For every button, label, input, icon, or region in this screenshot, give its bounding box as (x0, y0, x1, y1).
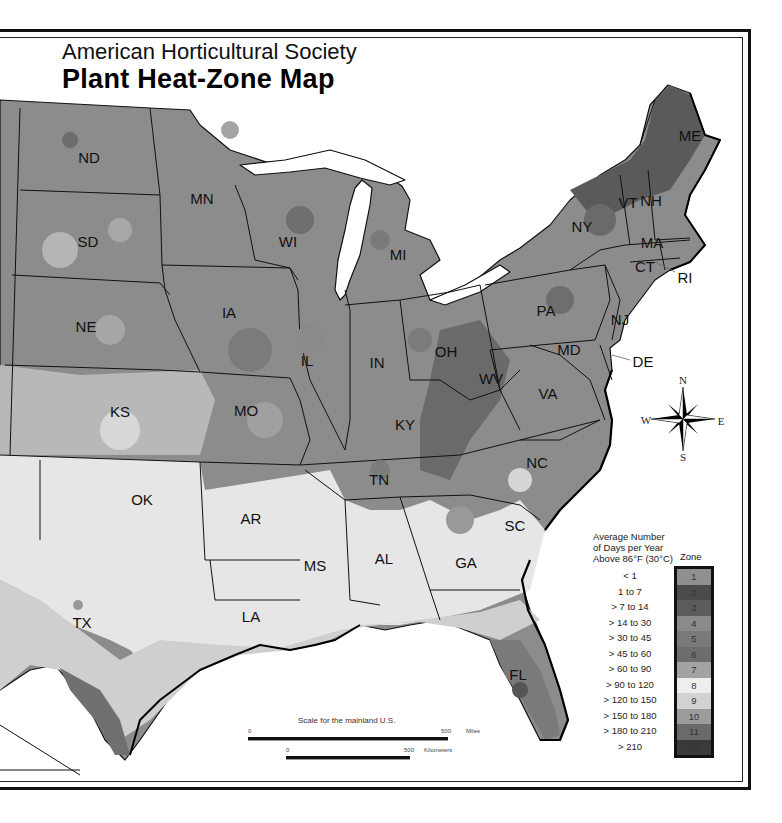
legend-range-label: > 45 to 60 (590, 648, 670, 659)
legend-swatch-zone-8: 8 (677, 678, 711, 694)
state-label-ks: KS (110, 403, 130, 420)
legend-swatch-zone-1: 1 (677, 569, 711, 585)
state-label-tn: TN (369, 471, 389, 488)
state-label-nd: ND (78, 149, 100, 166)
state-label-fl: FL (509, 666, 527, 683)
state-label-de: DE (633, 353, 654, 370)
state-label-mn: MN (190, 190, 213, 207)
state-label-ok: OK (131, 491, 153, 508)
state-label-me: ME (679, 127, 702, 144)
map-title: Plant Heat-Zone Map (62, 64, 382, 94)
state-label-ar: AR (241, 510, 262, 527)
state-label-la: LA (242, 608, 260, 625)
legend-swatch-zone-5: 5 (677, 631, 711, 647)
title-block: American Horticultural Society Plant Hea… (62, 40, 382, 94)
legend-range-label: > 60 to 90 (590, 663, 670, 674)
map-subtitle: American Horticultural Society (62, 40, 382, 64)
state-label-ri: RI (678, 269, 693, 286)
legend-range-label: > 30 to 45 (590, 632, 670, 643)
state-label-md: MD (557, 341, 580, 358)
state-label-tx: TX (72, 614, 91, 631)
legend-range-label: > 120 to 150 (590, 694, 670, 705)
legend-swatch-zone-3: 3 (677, 600, 711, 616)
legend-range-label: > 180 to 210 (590, 725, 670, 736)
state-label-ny: NY (572, 218, 593, 235)
state-label-oh: OH (435, 343, 458, 360)
legend-range-label: > 210 (590, 741, 670, 752)
legend-range-label: > 150 to 180 (590, 710, 670, 721)
scale-bar-kilometers (286, 756, 410, 760)
scale-bar-group: Scale for the mainland U.S. 0 500 Miles … (246, 715, 526, 765)
legend-swatch-column: 123456789101112 (674, 566, 714, 758)
state-label-ky: KY (395, 416, 415, 433)
legend-range-label: > 90 to 120 (590, 679, 670, 690)
state-label-ms: MS (304, 557, 327, 574)
legend-heading-line-2: of Days per Year (593, 542, 673, 553)
scale-miles-unit: Miles (466, 728, 480, 734)
state-label-nj: NJ (611, 311, 629, 328)
legend-heading-line-3: Above 86°F (30°C) (593, 553, 673, 564)
state-label-ne: NE (76, 318, 97, 335)
legend-swatch-zone-10: 10 (677, 709, 711, 725)
scale-km-start: 0 (286, 747, 289, 753)
state-label-ia: IA (222, 304, 236, 321)
state-label-va: VA (539, 385, 558, 402)
state-label-nh: NH (640, 192, 662, 209)
legend-swatch-zone-12: 12 (677, 740, 711, 756)
state-label-al: AL (375, 550, 393, 567)
state-label-in: IN (370, 354, 385, 371)
legend-swatch-zone-4: 4 (677, 616, 711, 632)
scale-bar-miles (248, 737, 448, 741)
legend-range-label: < 1 (590, 570, 670, 581)
state-label-ga: GA (455, 554, 477, 571)
scale-miles-start: 0 (248, 728, 251, 734)
state-label-ct: CT (635, 258, 655, 275)
compass-rose-icon (651, 387, 715, 451)
legend-swatch-zone-2: 2 (677, 585, 711, 601)
legend-range-label: > 7 to 14 (590, 601, 670, 612)
scale-km-end: 500 (404, 747, 414, 753)
legend-swatch-zone-11: 11 (677, 724, 711, 740)
legend-swatch-zone-7: 7 (677, 662, 711, 678)
legend-heading-line-1: Average Number (593, 531, 673, 542)
scale-km-unit: Kilometers (424, 747, 452, 753)
compass-west-label: W (641, 414, 651, 426)
state-label-nc: NC (526, 454, 548, 471)
compass-east-label: E (718, 415, 725, 427)
legend-range-label: 1 to 7 (590, 586, 670, 597)
compass-south-label: S (680, 451, 686, 463)
state-label-wv: WV (479, 370, 503, 387)
state-label-vt: VT (618, 194, 637, 211)
legend-swatch-zone-6: 6 (677, 647, 711, 663)
state-label-mo: MO (234, 402, 258, 419)
scale-miles-end: 500 (441, 728, 451, 734)
state-label-ma: MA (641, 234, 664, 251)
state-label-sc: SC (505, 517, 526, 534)
state-label-sd: SD (78, 233, 99, 250)
legend-swatch-zone-9: 9 (677, 693, 711, 709)
scale-title: Scale for the mainland U.S. (298, 716, 395, 725)
compass-north-label: N (679, 374, 687, 386)
state-label-mi: MI (390, 246, 407, 263)
legend-range-label: > 14 to 30 (590, 617, 670, 628)
state-label-il: IL (301, 352, 314, 369)
state-label-wi: WI (279, 233, 297, 250)
legend-heading: Average Number of Days per Year Above 86… (593, 531, 673, 564)
legend-zone-heading: Zone (680, 551, 702, 562)
state-label-pa: PA (537, 302, 556, 319)
